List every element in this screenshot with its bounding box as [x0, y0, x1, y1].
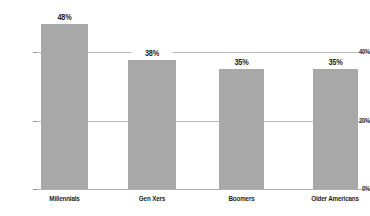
value-label-boomers: 35% — [221, 57, 261, 67]
value-label-gen-xers: 38% — [131, 48, 172, 58]
ytick-mark-20 — [33, 121, 37, 122]
bar-older-americans — [313, 69, 358, 189]
bar-gen-xers — [128, 60, 176, 189]
category-label-boomers: Boomers — [209, 194, 274, 203]
category-label-gen-xers: Gen Xers — [119, 194, 185, 203]
ytick-label-40: 40% — [345, 48, 370, 56]
plot-area: 40% 20% 0% 48% Millennials 38% Gen Xers … — [0, 0, 370, 216]
bar-chart: 40% 20% 0% 48% Millennials 38% Gen Xers … — [0, 0, 370, 216]
ytick-mark-40 — [33, 52, 37, 53]
value-label-millennials: 48% — [44, 12, 84, 22]
bar-millennials — [41, 24, 88, 189]
ytick-mark-0 — [33, 189, 37, 190]
value-label-older-americans: 35% — [315, 57, 355, 67]
category-label-millennials: Millennials — [32, 194, 97, 203]
bar-boomers — [219, 69, 264, 189]
category-label-older-americans: Older Americans — [302, 194, 368, 203]
axis-baseline-0 — [36, 189, 370, 190]
